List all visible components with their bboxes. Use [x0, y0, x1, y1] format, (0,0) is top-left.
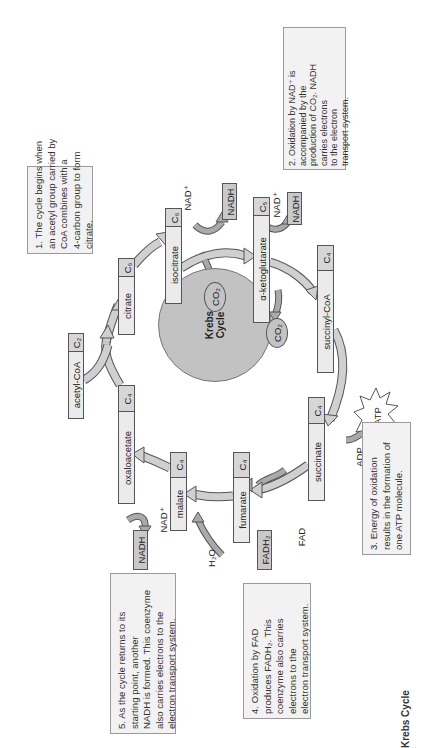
carbon-count: C₄ — [236, 460, 247, 471]
nadh-box-3: NADH — [133, 530, 148, 570]
molecule-isocitrate: C₆ isocitrate — [165, 208, 182, 304]
note-2-nad-oxidation: 2. Oxidation by NAD⁺ isaccompanied by th… — [283, 27, 346, 170]
molecule-name: citrate — [121, 293, 132, 319]
molecule-name: acetyl-CoA — [71, 362, 82, 408]
fadh2-box: FADH₂ — [257, 530, 272, 570]
carbon-count: C₅ — [256, 201, 267, 212]
molecule-name: succinate — [311, 442, 322, 482]
molecule-name: oxaloacetate — [121, 431, 132, 485]
molecule-succinyl-coa: C₄ succinyl-CoA — [317, 245, 334, 373]
molecule-name: succinyl-CoA — [320, 294, 331, 349]
molecule-name: fumarate — [236, 491, 247, 529]
carbon-count: C₄ — [320, 253, 331, 264]
note-3-atp-energy: 3. Energy of oxidationresults in the for… — [362, 422, 411, 555]
molecule-succinate: C₄ succinate — [308, 397, 325, 501]
carbon-count: C₄ — [311, 405, 322, 416]
note-3-text: 3. Energy of oxidationresults in the for… — [363, 423, 412, 556]
note-1-cycle-begins: 1. The cycle begins whenan acetyl group … — [27, 166, 93, 254]
molecule-name: α-ketoglutarate — [256, 237, 267, 301]
co2-bubble-2: CO₂ — [266, 318, 288, 348]
co2-bubble-1: CO₂ — [204, 282, 226, 312]
molecule-fumarate: C₄ fumarate — [233, 452, 250, 543]
nadh-box-2: NADH — [287, 192, 302, 225]
krebs-cycle-diagram: Krebs Cycle C₂ acetyl-CoA C₆ citrate C₆ … — [0, 0, 424, 748]
carbon-count: C₂ — [71, 337, 82, 348]
carbon-count: C₆ — [168, 212, 179, 223]
note-5-text: 5. As the cycle returns to itsstarting p… — [111, 574, 177, 735]
figure-caption: Krebs Cycle — [400, 690, 411, 748]
note-5-cycle-returns: 5. As the cycle returns to itsstarting p… — [110, 573, 176, 734]
carbon-count: C₆ — [121, 262, 132, 273]
note-1-text: 1. The cycle begins whenan acetyl group … — [28, 167, 94, 255]
molecule-oxaloacetate: C₄ oxaloacetate — [118, 385, 135, 504]
note-4-text: 4. Oxidation by FADproduces FADH₂. Thisc… — [244, 584, 312, 720]
molecule-acetyl-coa: C₂ acetyl-CoA — [68, 333, 84, 419]
carbon-count: C₄ — [121, 393, 132, 404]
molecule-malate: C₄ malate — [170, 452, 187, 531]
molecule-name: malate — [173, 490, 184, 519]
note-4-fad-oxidation: 4. Oxidation by FADproduces FADH₂. Thisc… — [243, 583, 311, 719]
molecule-name: isocitrate — [168, 246, 179, 284]
carbon-count: C₄ — [173, 460, 184, 471]
note-2-text: 2. Oxidation by NAD⁺ isaccompanied by th… — [284, 28, 347, 171]
molecule-citrate: C₆ citrate — [118, 258, 135, 335]
molecule-alpha-ketoglutarate: C₅ α-ketoglutarate — [253, 197, 270, 323]
krebs-cycle-label: Krebs Cycle — [204, 311, 226, 339]
nadh-box-1: NADH — [222, 183, 237, 220]
